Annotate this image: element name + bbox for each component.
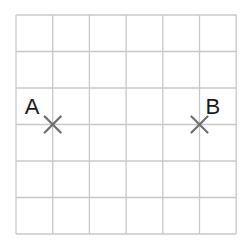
grid-diagram <box>0 0 251 247</box>
point-label-a: A <box>25 96 40 118</box>
grid-lines <box>16 15 236 234</box>
point-label-b: B <box>206 96 221 118</box>
